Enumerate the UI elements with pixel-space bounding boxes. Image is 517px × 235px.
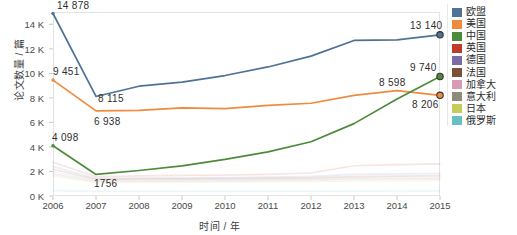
- legend-label: 中国: [466, 31, 486, 41]
- y-tick-label: 14 K: [10, 19, 44, 30]
- x-tick-label: 2013: [343, 200, 364, 211]
- legend-item-3[interactable]: 英国: [452, 42, 517, 54]
- legend-swatch-icon: [452, 32, 462, 41]
- x-tick-label: 2015: [429, 200, 450, 211]
- legend-item-8[interactable]: 日本: [452, 103, 517, 115]
- legend-label: 日本: [466, 104, 486, 114]
- legend-swatch-icon: [452, 8, 462, 17]
- x-tick-label: 2011: [258, 200, 278, 211]
- legend-label: 法国: [466, 68, 486, 78]
- legend-label: 英国: [466, 43, 486, 53]
- series-line-9: [53, 191, 440, 192]
- x-tick-label: 2014: [386, 200, 407, 211]
- data-label: 13 140: [410, 20, 442, 31]
- data-point-dot: [51, 12, 54, 15]
- legend-swatch-icon: [452, 104, 462, 113]
- legend-label: 美国: [466, 19, 486, 29]
- legend-swatch-icon: [452, 116, 462, 125]
- legend-item-2[interactable]: 中国: [452, 30, 517, 42]
- data-label: 8 206: [412, 99, 439, 110]
- data-label: 8 598: [379, 77, 406, 88]
- y-tick-label: 4 K: [10, 141, 44, 152]
- data-label: 4 098: [52, 132, 79, 143]
- legend-item-5[interactable]: 法国: [452, 66, 517, 78]
- legend: 欧盟美国中国英国德国法国加拿大意大利日本俄罗斯: [452, 6, 517, 127]
- data-point-marker: [437, 92, 443, 98]
- data-point-dot: [51, 78, 54, 81]
- data-point-marker: [437, 73, 443, 79]
- x-tick-label: 2010: [214, 200, 235, 211]
- x-tick-label: 2009: [171, 200, 192, 211]
- y-tick-label: 2 K: [10, 166, 44, 177]
- legend-label: 俄罗斯: [466, 116, 496, 126]
- legend-item-7[interactable]: 意大利: [452, 91, 517, 103]
- legend-swatch-icon: [452, 56, 462, 65]
- data-label: 9 451: [53, 66, 80, 77]
- data-point-marker: [437, 32, 443, 38]
- data-label: 1756: [94, 178, 117, 189]
- x-tick-label: 2006: [42, 200, 63, 211]
- legend-swatch-icon: [452, 80, 462, 89]
- x-tick-label: 2008: [128, 200, 149, 211]
- y-tick-label: 10 K: [10, 68, 44, 79]
- y-tick-label: 0 K: [10, 191, 44, 202]
- data-label: 6 938: [94, 116, 121, 127]
- x-tick-label: 2012: [300, 200, 321, 211]
- legend-item-6[interactable]: 加拿大: [452, 79, 517, 91]
- legend-item-4[interactable]: 德国: [452, 54, 517, 66]
- legend-swatch-icon: [452, 92, 462, 101]
- legend-swatch-icon: [452, 20, 462, 29]
- data-label: 8 115: [98, 93, 124, 104]
- legend-item-1[interactable]: 美国: [452, 18, 517, 30]
- legend-swatch-icon: [452, 44, 462, 53]
- legend-swatch-icon: [452, 68, 462, 77]
- legend-item-0[interactable]: 欧盟: [452, 6, 517, 18]
- y-tick-label: 12 K: [10, 43, 44, 54]
- data-label: 9 740: [410, 62, 437, 73]
- x-axis-title: 时间 / 年: [0, 218, 440, 233]
- legend-divider: [447, 4, 448, 126]
- legend-label: 欧盟: [466, 7, 486, 17]
- y-tick-label: 8 K: [10, 92, 44, 103]
- data-point-dot: [51, 144, 54, 147]
- legend-label: 德国: [466, 55, 486, 65]
- legend-item-9[interactable]: 俄罗斯: [452, 115, 517, 127]
- y-axis-tick-labels: 0 K2 K4 K6 K8 K10 K12 K14 K: [0, 0, 44, 235]
- data-label: 14 878: [57, 0, 89, 11]
- legend-label: 意大利: [466, 92, 496, 102]
- chart-container: 论文数量 / 篇 时间 / 年 0 K2 K4 K6 K8 K10 K12 K1…: [0, 0, 517, 235]
- y-tick-label: 6 K: [10, 117, 44, 128]
- legend-label: 加拿大: [466, 80, 496, 90]
- x-tick-label: 2007: [85, 200, 106, 211]
